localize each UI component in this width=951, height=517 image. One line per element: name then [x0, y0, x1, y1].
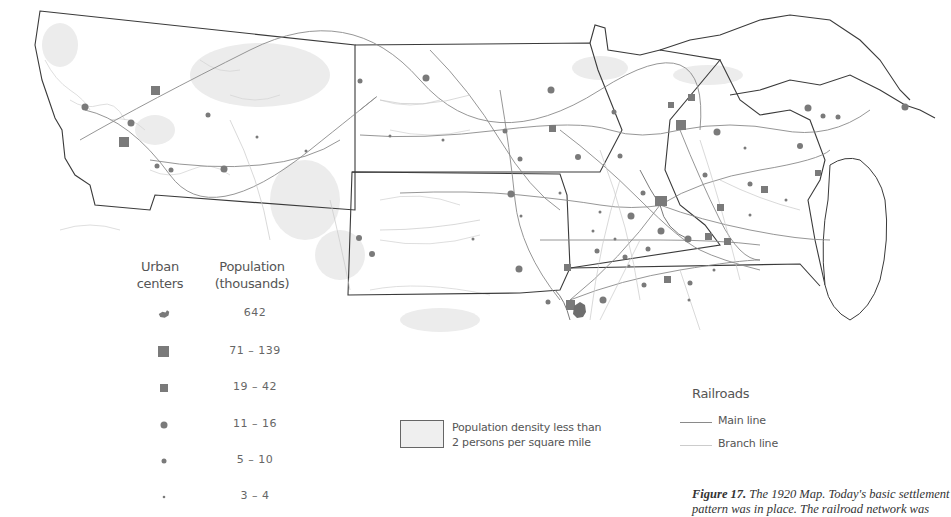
legend-branch-line: Branch line: [680, 437, 880, 453]
main-line-swatch: [680, 422, 712, 423]
legend-row: 5 – 10: [130, 451, 330, 471]
medium-circle-icon: [158, 455, 170, 467]
city-square-large: [655, 196, 667, 206]
legend-header-line: (thousands): [202, 275, 302, 292]
small-square-icon: [158, 382, 170, 394]
city-outline-icon: [158, 308, 170, 320]
large-circle-icon: [158, 419, 170, 431]
legend-header-line: Urban: [130, 258, 190, 275]
density-swatch: [400, 420, 444, 448]
caption-text: The 1920 Map. Today's basic settlement: [749, 487, 949, 501]
city-square-large: [151, 86, 160, 95]
legend-row: 71 – 139: [130, 342, 330, 362]
density-label-line: Population density less than: [452, 420, 652, 435]
small-dot-icon: [158, 491, 170, 503]
legend-value: 642: [210, 306, 300, 319]
legend-value: 19 – 42: [210, 380, 300, 393]
caption-line-2: pattern was in place. The railroad netwo…: [692, 502, 951, 517]
lake-michigan: [823, 158, 887, 320]
figure-caption: Figure 17. The 1920 Map. Today's basic s…: [692, 487, 951, 517]
state-borders: [35, 11, 935, 295]
branch-line-swatch: [680, 445, 712, 446]
large-square-icon: [158, 346, 170, 358]
legend-value: 71 – 139: [210, 344, 300, 357]
legend-header-line: Population: [202, 258, 302, 275]
legend-row: 642: [130, 304, 330, 324]
legend-row: 11 – 16: [130, 415, 330, 435]
density-label: Population density less than 2 persons p…: [452, 420, 652, 450]
density-label-line: 2 persons per square mile: [452, 435, 652, 450]
legend-symbol-header: Urban centers: [130, 258, 190, 292]
figure-number: Figure 17.: [692, 487, 746, 501]
legend-value: 3 – 4: [210, 489, 300, 502]
main-line-label: Main line: [718, 414, 766, 427]
legend-urban-centers: Urban centers Population (thousands) 642…: [130, 258, 330, 515]
city-square-large: [119, 137, 129, 147]
legend-header-line: centers: [130, 275, 190, 292]
legend-value: 5 – 10: [210, 453, 300, 466]
branch-line-label: Branch line: [718, 437, 778, 450]
city-square-large: [566, 300, 575, 310]
legend-row: 19 – 42: [130, 378, 330, 398]
railroads-title: Railroads: [692, 386, 749, 401]
legend-main-line: Main line: [680, 414, 880, 430]
michigan-up-border: [730, 75, 935, 118]
legend-row: 3 – 4: [130, 487, 330, 507]
legend-value: 11 – 16: [210, 417, 300, 430]
legend-value-header: Population (thousands): [202, 258, 302, 292]
caption-line-1: Figure 17. The 1920 Map. Today's basic s…: [692, 487, 951, 502]
city-square-large: [676, 120, 686, 130]
